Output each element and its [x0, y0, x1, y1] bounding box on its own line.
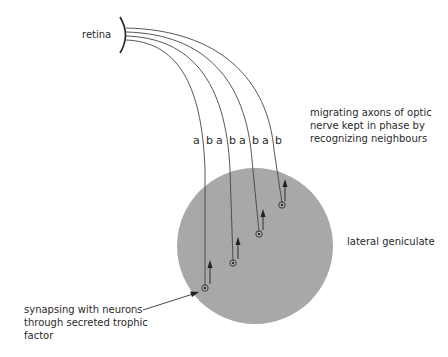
svg-text:a: a	[239, 134, 246, 147]
svg-text:b: b	[252, 134, 259, 147]
synapse-pointer-arrow	[143, 294, 193, 310]
axon-ab-labels: a b a b a b a b	[193, 134, 282, 147]
svg-text:b: b	[275, 134, 282, 147]
svg-text:nerve kept in phase by: nerve kept in phase by	[310, 120, 425, 131]
svg-text:b: b	[229, 134, 236, 147]
svg-text:b: b	[206, 134, 213, 147]
migrating-axons-label: migrating axons of optic nerve kept in p…	[310, 107, 432, 144]
svg-text:a: a	[262, 134, 269, 147]
svg-text:through secreted trophic: through secreted trophic	[24, 317, 148, 328]
synapsing-label: synapsing with neurons through secreted …	[24, 304, 148, 341]
svg-text:migrating axons of optic: migrating axons of optic	[310, 107, 432, 118]
svg-text:a: a	[216, 134, 223, 147]
retina-arc	[120, 17, 126, 53]
retina-label: retina	[82, 29, 111, 40]
lateral-geniculate-label: lateral geniculate	[347, 236, 435, 247]
svg-text:synapsing with neurons: synapsing with neurons	[24, 304, 143, 315]
svg-text:factor: factor	[24, 330, 54, 341]
svg-text:a: a	[193, 134, 200, 147]
svg-text:recognizing neighbours: recognizing neighbours	[310, 133, 427, 144]
optic-axon-diagram: retina a b a b a b a b	[0, 0, 448, 357]
